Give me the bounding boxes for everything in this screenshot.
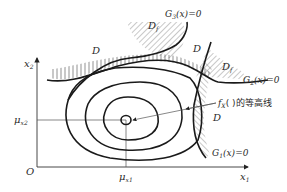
safe-region-label-mid: D — [192, 43, 201, 54]
safe-region-label-right: D — [212, 112, 221, 123]
g2-label: G2(x)=0 — [243, 75, 280, 86]
mean-guides — [37, 120, 126, 167]
pdf-contours — [66, 67, 202, 160]
g3-label: G3(x)=0 — [165, 9, 202, 20]
origin-label: O — [26, 166, 34, 177]
failure-hatching — [50, 22, 250, 158]
mu-x1-label: μx1 — [119, 171, 133, 183]
contour-annotation: fX( )的等高线 — [217, 97, 272, 109]
x-axis-label: x1 — [240, 171, 249, 183]
safe-region-label-left: D — [91, 45, 100, 56]
mu-x2-label: μx2 — [14, 114, 28, 126]
g1-label: G1(x)=0 — [212, 148, 249, 159]
y-axis-label: x2 — [24, 58, 34, 70]
reliability-diagram: x2 x1 O μx2 μx1 G3(x)=0 G2(x)=0 G1(x)=0 … — [0, 0, 287, 192]
